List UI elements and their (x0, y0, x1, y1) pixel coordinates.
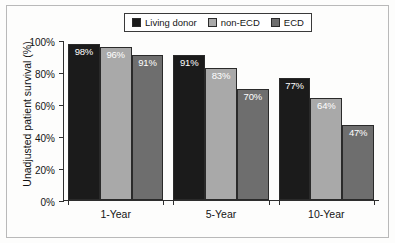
legend-swatch-icon-living-donor (132, 18, 141, 27)
bar-ecd-1-year: 91% (132, 55, 164, 200)
y-axis-tick-label: 0% (41, 196, 55, 207)
bar-ecd-10-year: 47% (342, 125, 374, 200)
legend-swatch-icon-non-ecd (208, 18, 217, 27)
x-axis-tick (173, 201, 174, 205)
y-axis-tick: 80% (59, 73, 63, 74)
bar-non-ecd-1-year: 96% (100, 47, 132, 200)
bar-value-label: 83% (212, 71, 230, 81)
legend-entry-living-donor: Living donor (132, 18, 197, 28)
bar-value-label: 64% (317, 101, 335, 111)
bar-value-label: 96% (106, 50, 124, 60)
bar-value-label: 77% (285, 81, 303, 91)
y-axis-tick-label: 80% (35, 68, 55, 79)
bar-living-donor-1-year: 98% (68, 44, 100, 200)
y-axis-tick: 100% (59, 41, 63, 42)
bar-living-donor-5-year: 91% (173, 55, 205, 200)
bar-group: 98%96%91%1-Year (68, 41, 163, 200)
x-axis-tick (374, 201, 375, 205)
y-axis-tick: 0% (59, 201, 63, 202)
x-axis-tick (163, 201, 164, 205)
y-axis-title: Unadjusted patient survival (%) (21, 24, 33, 204)
x-axis-tick (279, 201, 280, 205)
bar-ecd-5-year: 70% (237, 89, 269, 200)
bar-value-label: 98% (75, 47, 93, 57)
y-axis-tick-label: 20% (35, 164, 55, 175)
x-axis-line (63, 200, 379, 201)
bar-value-label: 47% (349, 128, 367, 138)
bar-value-label: 91% (138, 58, 156, 68)
x-axis-tick (68, 201, 69, 205)
x-axis-category-label: 1-Year (68, 208, 163, 220)
legend-swatch-icon-ecd (271, 18, 280, 27)
y-axis-tick: 20% (59, 169, 63, 170)
x-axis-category-label: 5-Year (173, 208, 268, 220)
chart-figure: Living donor non-ECD ECD Unadjusted pati… (0, 0, 395, 243)
y-axis-tick: 40% (59, 137, 63, 138)
legend-label-living-donor: Living donor (145, 18, 197, 28)
bar-group: 77%64%47%10-Year (279, 41, 374, 200)
bar-value-label: 70% (244, 92, 262, 102)
x-axis-tick (269, 201, 270, 205)
bar-value-label: 91% (180, 58, 198, 68)
legend-label-ecd: ECD (284, 18, 304, 28)
y-axis-tick-label: 40% (35, 132, 55, 143)
bar-living-donor-10-year: 77% (279, 78, 311, 200)
plot-area: 0%20%40%60%80%100% 98%96%91%1-Year91%83%… (63, 41, 378, 201)
chart-legend: Living donor non-ECD ECD (124, 13, 312, 32)
bar-non-ecd-5-year: 83% (205, 68, 237, 200)
bar-group: 91%83%70%5-Year (173, 41, 268, 200)
y-axis-tick: 60% (59, 105, 63, 106)
bar-non-ecd-10-year: 64% (310, 98, 342, 200)
x-axis-category-label: 10-Year (279, 208, 374, 220)
legend-label-non-ecd: non-ECD (221, 18, 260, 28)
y-axis-tick-label: 100% (29, 36, 55, 47)
legend-entry-ecd: ECD (271, 18, 304, 28)
legend-entry-non-ecd: non-ECD (208, 18, 260, 28)
y-axis-tick-label: 60% (35, 100, 55, 111)
bars-layer: 98%96%91%1-Year91%83%70%5-Year77%64%47%1… (64, 41, 378, 200)
